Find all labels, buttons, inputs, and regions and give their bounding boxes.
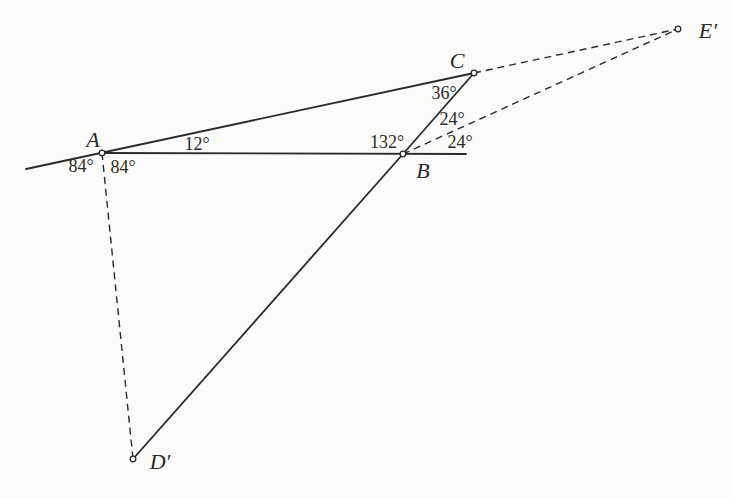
angle-84deg-left-of-A: 84° (68, 156, 93, 176)
figure-page: ABCD′E′12°84°84°132°36°24°24° (0, 0, 732, 498)
angle-24deg-upper-at-B: 24° (439, 109, 464, 129)
point-Dp-marker (130, 456, 136, 462)
angle-84deg-right-of-A: 84° (110, 157, 135, 177)
point-Ep-label: E′ (698, 18, 718, 43)
angle-12deg-at-A: 12° (184, 134, 209, 154)
segment-C-Eprime-dashed (474, 29, 678, 73)
point-A-marker (99, 150, 105, 156)
point-Ep-marker (675, 26, 681, 32)
point-B-label: B (416, 158, 429, 183)
point-Dp-label: D′ (149, 449, 172, 474)
point-C-label: C (450, 48, 465, 73)
angle-24deg-lower-at-B: 24° (447, 132, 472, 152)
segment-A-Dprime-dashed (102, 153, 133, 459)
geometry-triangle-construction-figure: ABCD′E′12°84°84°132°36°24°24° (0, 0, 732, 498)
point-B-marker (400, 151, 406, 157)
point-A-label: A (84, 127, 100, 152)
angle-132deg-at-B: 132° (370, 132, 404, 152)
angle-36deg-at-C: 36° (431, 83, 456, 103)
segment-B-Dprime (133, 154, 403, 459)
point-C-marker (471, 70, 477, 76)
line-AB-extended-right (102, 153, 466, 154)
